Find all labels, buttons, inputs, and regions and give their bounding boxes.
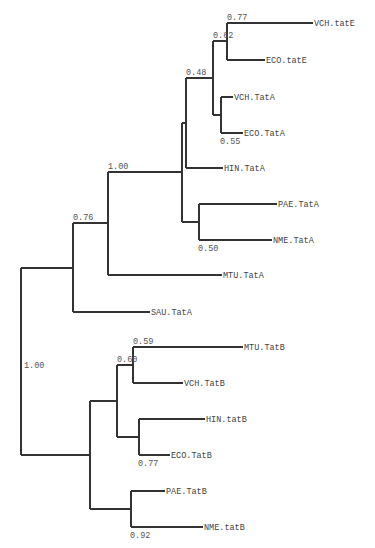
tip-label-hin-tata: HIN.TatA bbox=[224, 164, 266, 174]
tip-labels: VCH.tatEECO.tatEVCH.TatAECO.TatAHIN.TatA… bbox=[151, 19, 355, 533]
support-value: 1.00 bbox=[24, 361, 44, 371]
tip-label-mtu-tata: MTU.TatA bbox=[223, 271, 265, 281]
support-value: 1.00 bbox=[108, 162, 128, 172]
support-value: 0.77 bbox=[227, 13, 247, 23]
support-values: 0.770.550.620.480.501.000.760.590.770.60… bbox=[24, 13, 247, 541]
support-value: 0.77 bbox=[138, 459, 158, 469]
tip-label-vch-tatb: VCH.TatB bbox=[184, 379, 225, 389]
support-value: 0.55 bbox=[220, 137, 240, 147]
tip-label-sau-tata: SAU.TatA bbox=[151, 308, 193, 318]
tree-canvas: 0.770.550.620.480.501.000.760.590.770.60… bbox=[0, 0, 375, 548]
tip-label-nme-tatb: NME.tatB bbox=[204, 523, 245, 533]
tip-label-eco-tate: ECO.tatE bbox=[266, 56, 307, 66]
support-value: 0.48 bbox=[186, 68, 206, 78]
tip-label-pae-tatb: PAE.TatB bbox=[166, 487, 207, 497]
tip-label-nme-tata: NME.TatA bbox=[273, 236, 315, 246]
tip-label-vch-tate: VCH.tatE bbox=[314, 19, 355, 29]
tip-label-hin-tatb: HIN.tatB bbox=[206, 415, 247, 425]
tip-label-mtu-tatb: MTU.TatB bbox=[244, 343, 285, 353]
tip-label-eco-tata: ECO.TatA bbox=[244, 129, 286, 139]
support-value: 0.62 bbox=[213, 31, 233, 41]
support-value: 0.50 bbox=[198, 244, 218, 254]
support-value: 0.92 bbox=[130, 531, 150, 541]
support-value: 0.59 bbox=[133, 337, 153, 347]
tip-label-eco-tatb: ECO.TatB bbox=[171, 451, 212, 461]
tip-label-vch-tata: VCH.TatA bbox=[234, 93, 276, 103]
support-value: 0.76 bbox=[73, 213, 93, 223]
support-value: 0.60 bbox=[117, 355, 137, 365]
tip-label-pae-tata: PAE.TatA bbox=[278, 200, 320, 210]
phylogenetic-tree: 0.770.550.620.480.501.000.760.590.770.60… bbox=[0, 0, 375, 548]
